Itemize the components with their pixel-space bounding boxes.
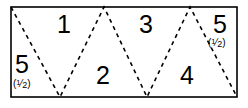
boundary-rectangle	[11, 7, 237, 97]
half-fraction-note-left: (1⁄2)	[13, 79, 31, 90]
figure-geometry	[0, 0, 248, 108]
half-fraction-note-right: (1⁄2)	[208, 38, 226, 49]
paren-close-right: )	[222, 37, 225, 48]
dashed-zigzag-line	[11, 7, 237, 97]
region-label-1: 1	[57, 12, 71, 37]
figure-canvas: 1 2 3 4 5 5 (1⁄2) (1⁄2)	[0, 0, 248, 108]
region-label-3: 3	[139, 12, 153, 37]
region-label-2: 2	[96, 63, 110, 88]
region-label-5-left: 5	[15, 52, 29, 77]
paren-close-left: )	[27, 78, 30, 89]
region-label-4: 4	[180, 63, 194, 88]
region-label-5-right: 5	[213, 12, 227, 37]
